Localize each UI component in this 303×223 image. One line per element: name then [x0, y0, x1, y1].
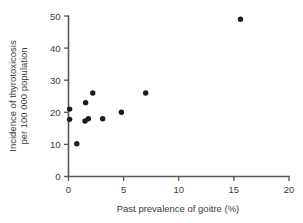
- data-point: [238, 17, 243, 22]
- data-point: [86, 116, 91, 121]
- y-tick-label: 50: [50, 11, 61, 22]
- x-axis-title: Past prevalence of goitre (%): [117, 203, 240, 214]
- x-tick-label: 5: [121, 184, 126, 195]
- y-tick-group: 01020304050: [50, 11, 69, 183]
- data-point: [119, 110, 124, 115]
- data-point: [100, 116, 105, 121]
- data-point: [67, 106, 72, 111]
- x-tick-label: 10: [173, 184, 184, 195]
- x-tick-label: 15: [229, 184, 240, 195]
- data-point: [67, 117, 72, 122]
- y-tick-label: 0: [55, 171, 60, 182]
- scatter-plot-figure: 01020304050 05101520 Past prevalence of …: [0, 0, 303, 223]
- y-tick-label: 10: [50, 139, 61, 150]
- data-point: [90, 90, 95, 95]
- x-tick-label: 0: [66, 184, 71, 195]
- data-point: [83, 100, 88, 105]
- y-axis-title-line2: per 100 000 population: [18, 47, 29, 144]
- y-tick-label: 40: [50, 43, 61, 54]
- y-axis-title-line1: Incidence of thyrotoxicosis: [7, 40, 18, 152]
- data-point: [74, 141, 79, 146]
- data-points-group: [67, 17, 243, 147]
- x-tick-group: 05101520: [66, 177, 294, 195]
- data-point: [143, 90, 148, 95]
- x-tick-label: 20: [284, 184, 295, 195]
- y-tick-label: 20: [50, 107, 61, 118]
- y-tick-label: 30: [50, 75, 61, 86]
- plot-canvas: 01020304050 05101520 Past prevalence of …: [0, 0, 303, 223]
